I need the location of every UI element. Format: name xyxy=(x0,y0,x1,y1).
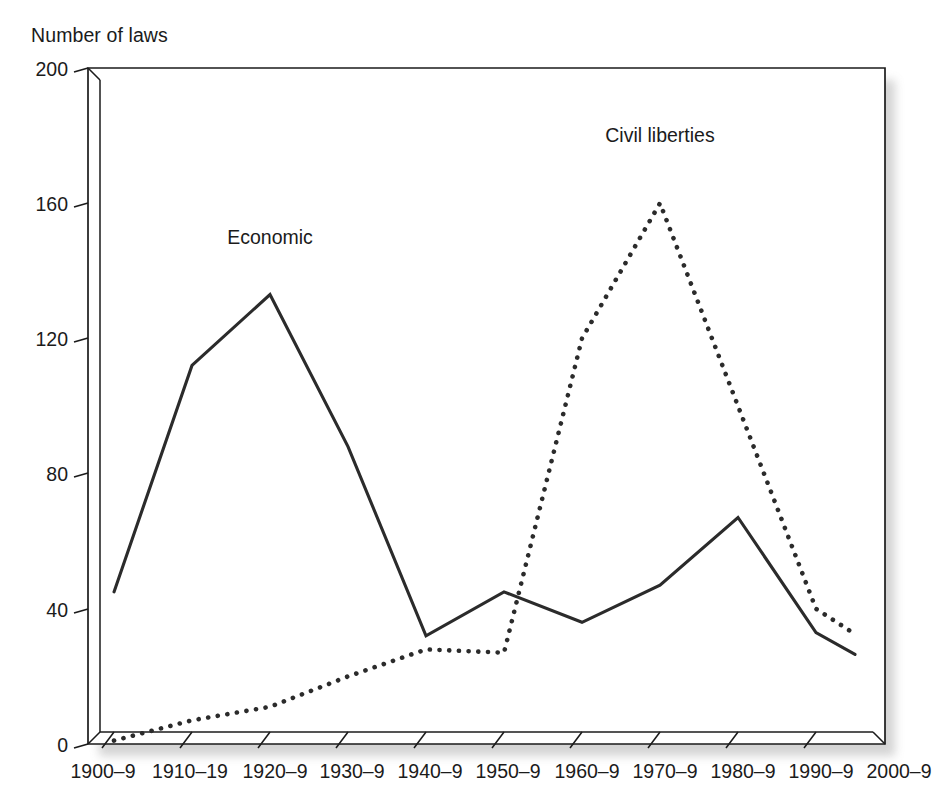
x-tick-label-2000: 2000–9 xyxy=(866,760,931,782)
x-tick-label-1970: 1970–9 xyxy=(632,760,697,782)
x-tick-label-1920: 1920–9 xyxy=(242,760,307,782)
y-tick-label-80: 80 xyxy=(46,463,68,485)
x-tick-label-1980: 1980–9 xyxy=(710,760,775,782)
x-tick-label-1930: 1930–9 xyxy=(319,760,384,782)
y-tick-label-120: 120 xyxy=(35,328,68,350)
y-tick-label-0: 0 xyxy=(57,734,68,756)
plot-area-background xyxy=(88,68,885,744)
y-tick-label-40: 40 xyxy=(46,599,68,621)
series-annotation-civil-liberties: Civil liberties xyxy=(605,124,715,146)
y-tick-label-160: 160 xyxy=(35,193,68,215)
y-tick-label-200: 200 xyxy=(35,58,68,80)
x-tick-label-1910: 1910–19 xyxy=(152,760,228,782)
y-tick-labels: 200 160 120 80 40 0 xyxy=(35,58,68,756)
chart-figure: Number of laws 200 xyxy=(0,0,938,808)
x-tick-label-1990: 1990–9 xyxy=(788,760,853,782)
y-tick-marks xyxy=(74,68,88,748)
x-tick-labels: 1900–9 1910–19 1920–9 1930–9 1940–9 1950… xyxy=(70,760,931,782)
x-tick-label-1960: 1960–9 xyxy=(554,760,619,782)
x-tick-label-1950: 1950–9 xyxy=(475,760,540,782)
series-annotation-economic: Economic xyxy=(227,226,313,248)
x-tick-label-1940: 1940–9 xyxy=(397,760,462,782)
x-tick-label-1900: 1900–9 xyxy=(70,760,135,782)
line-chart-canvas: 200 160 120 80 40 0 1900–9 1910–19 1920–… xyxy=(0,0,938,808)
